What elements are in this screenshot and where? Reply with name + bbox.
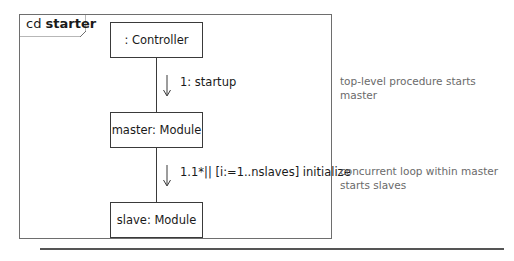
note-line: concurrent loop within master	[340, 164, 498, 178]
arrow-down-icon	[162, 75, 172, 97]
message-startup: 1: startup	[180, 75, 236, 89]
object-label: : Controller	[124, 33, 188, 47]
frame-name: starter	[46, 16, 97, 31]
note-line: starts slaves	[340, 178, 498, 192]
object-master[interactable]: master: Module	[110, 112, 203, 148]
link-controller-master	[156, 58, 157, 113]
message-initialize: 1.1*|| [i:=1..nslaves] initialize	[180, 165, 351, 179]
arrow-down-icon	[162, 165, 172, 187]
note-line: top-level procedure starts master	[340, 74, 514, 102]
note-concurrent-loop: concurrent loop within master starts sla…	[340, 164, 498, 192]
bottom-divider	[40, 248, 504, 250]
object-label: master: Module	[112, 123, 202, 137]
frame-kind: cd	[26, 16, 41, 31]
frame-title: cd starter	[26, 16, 96, 31]
note-top-level: top-level procedure starts master	[340, 74, 514, 102]
link-master-slave	[156, 148, 157, 203]
object-slave[interactable]: slave: Module	[110, 202, 203, 238]
object-label: slave: Module	[117, 213, 196, 227]
object-controller[interactable]: : Controller	[110, 22, 203, 58]
